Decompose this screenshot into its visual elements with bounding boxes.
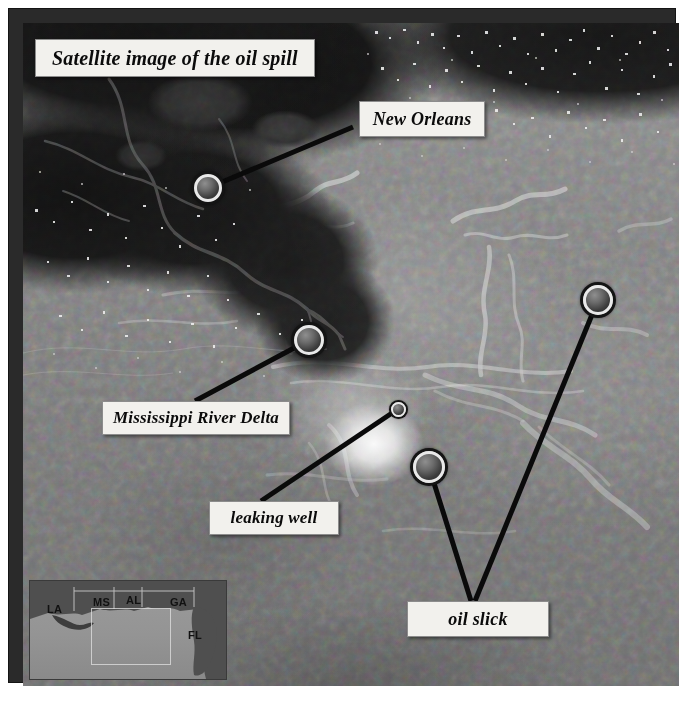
inset-delta-detail <box>52 615 94 630</box>
inset-locator-map: LA MS AL GA FL <box>29 580 227 680</box>
inset-state-label-ga: GA <box>170 596 187 608</box>
callout-label-leaking-well: leaking well <box>209 501 339 535</box>
marker-new-orleans[interactable] <box>194 174 222 202</box>
marker-mississippi-delta[interactable] <box>294 325 324 355</box>
leader-line-oil-slick-2 <box>475 300 598 601</box>
inset-state-label-ms: MS <box>93 596 110 608</box>
callout-label-new-orleans: New Orleans <box>359 101 485 137</box>
inset-extent-box <box>91 608 171 665</box>
leader-line-oil-slick-1 <box>429 467 471 601</box>
figure-root: Satellite image of the oil spill New Orl… <box>0 0 689 702</box>
callout-label-oil-slick: oil slick <box>407 601 549 637</box>
image-frame: Satellite image of the oil spill New Orl… <box>8 8 676 683</box>
callout-label-mississippi-river-delta: Mississippi River Delta <box>102 401 290 435</box>
inset-state-label-fl: FL <box>188 629 202 641</box>
marker-oil-slick-1[interactable] <box>413 451 445 483</box>
inset-state-label-al: AL <box>126 594 141 606</box>
marker-oil-slick-2[interactable] <box>583 285 613 315</box>
leader-line-delta <box>195 340 309 401</box>
leader-line-new-orleans <box>208 127 353 188</box>
satellite-image: Satellite image of the oil spill New Orl… <box>23 23 679 686</box>
inset-state-label-la: LA <box>47 603 62 615</box>
figure-title: Satellite image of the oil spill <box>35 39 315 77</box>
marker-leaking-well[interactable] <box>391 402 406 417</box>
